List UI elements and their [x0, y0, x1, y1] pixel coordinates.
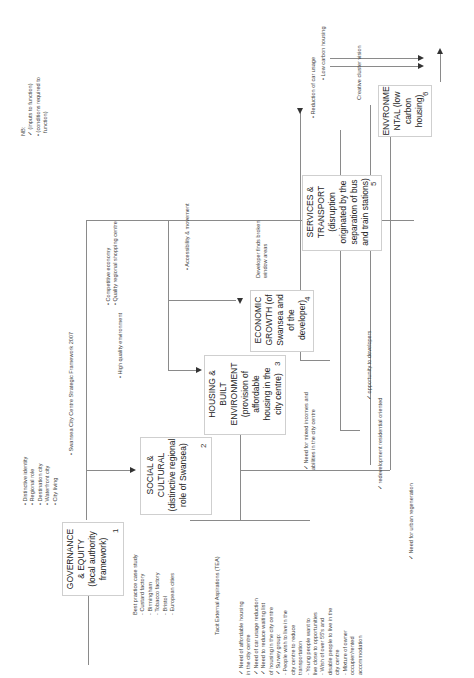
condition-reduction: • Reduction of car usage — [310, 57, 317, 118]
node-number: 1 — [111, 529, 120, 533]
legend: NB: ✓ (inputs to function) • (conditions… — [20, 77, 50, 136]
legend-title: NB: — [20, 77, 27, 136]
legend-item-conditions: • (conditions required to — [35, 77, 42, 136]
input-tea: Tacit External Aspirations (TEA) — [214, 556, 221, 635]
condition-transport: • Accessibility & movement — [184, 203, 191, 270]
node-services-transport[interactable]: SERVICES & TRANSPORT (disruption origina… — [302, 175, 382, 251]
condition-low-carbon: • Low carbon housing — [320, 26, 327, 80]
node-housing-built-environment[interactable]: HOUSING & BUILT ENVIRONMENT (provision o… — [204, 355, 286, 435]
node-economic-growth[interactable]: ECONOMIC GROWTH (of Swansea and of the d… — [250, 290, 314, 352]
inputs-best-practice: Best practice case study - Custard facto… — [132, 554, 176, 615]
legend-item-conditions-2: function) — [42, 77, 49, 136]
input-urban-regeneration: ✓ Need for urban regeneration — [408, 483, 415, 560]
legend-item-inputs: ✓ (inputs to function) — [27, 77, 34, 136]
node-governance-equity[interactable]: GOVERNANCE & EQUITY (local authority fra… — [62, 522, 124, 596]
conditions-governance: • Distinctive identity • Regional role •… — [22, 457, 59, 505]
node-social-cultural[interactable]: SOCIAL & CULTURAL (distinctive regional … — [140, 437, 212, 515]
conditions-economic: • Competitive economy • Quality regional… — [105, 221, 120, 305]
input-opportunity: ✓ opportunity to developers — [366, 331, 373, 400]
input-redevelopment: ✓ redevelopment residential oriented — [377, 398, 384, 490]
inputs-needs: ✓ Need of affordable housing in the city… — [238, 598, 364, 675]
input-broken-window: Developer finds broken window areas — [255, 220, 270, 278]
node-environmental[interactable]: ENVRONME NTAL (low carbon housing) 6 — [378, 85, 432, 137]
condition-framework: • Swansea City Centre Strategic Framewor… — [68, 332, 75, 455]
output-creative-cluster: Creative cluster vision — [356, 45, 363, 100]
inputs-mixed-incomes: ✓ Need for mixed incomes and abilities i… — [303, 392, 318, 470]
condition-housing: • High quality environment — [117, 313, 124, 378]
